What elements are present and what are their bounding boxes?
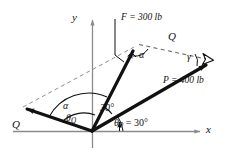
leader-line-f-group <box>115 19 124 62</box>
vector-label-q-upper: Q <box>168 31 176 42</box>
vector-q-shaft <box>27 109 92 131</box>
angle-arc-gamma-group <box>195 54 198 66</box>
angle-label-alpha-origin: α <box>63 101 68 111</box>
angle-label-theta-p: θP = 30° <box>114 118 148 130</box>
leader-line-f <box>115 19 124 62</box>
vector-q-group <box>27 109 92 131</box>
vector-label-q-left: Q <box>12 119 20 130</box>
y-axis-label: y <box>72 12 77 23</box>
angle-label-gamma: γ <box>187 52 191 62</box>
x-axis-label: x <box>206 124 211 135</box>
dashed-vector-q-translated <box>139 45 206 60</box>
force-label-p: P = 400 lb <box>163 76 204 86</box>
vector-diagram-figure: y x F = 300 lb P = 400 lb Q Q α α γ 30° … <box>0 0 226 162</box>
angle-label-theta-q: θQ <box>66 113 76 125</box>
angle-label-30-degrees: 30° <box>100 103 114 113</box>
angle-arc-gamma <box>195 54 198 66</box>
force-label-f: F = 300 lb <box>121 13 162 23</box>
angle-label-alpha-tip: α <box>139 50 144 60</box>
theta-p-value: = 30° <box>123 117 148 128</box>
theta-q-subscript: Q <box>71 117 76 125</box>
